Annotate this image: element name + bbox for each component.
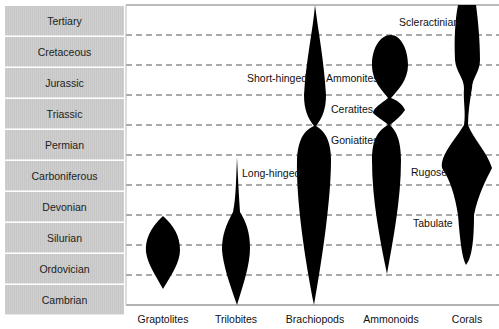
label-scleractinian: Scleractinian — [399, 16, 459, 28]
trilobites-shape — [222, 157, 250, 305]
diversity-plot — [0, 0, 499, 329]
label-ammonites: Ammonites — [326, 72, 379, 84]
brachiopods-shape — [297, 5, 331, 305]
axis-label-brachiopods: Brachiopods — [286, 313, 344, 325]
label-tabulate: Tabulate — [413, 217, 453, 229]
axis-label-graptolites: Graptolites — [138, 313, 189, 325]
axis-label-ammonoids: Ammonoids — [363, 313, 418, 325]
axis-label-trilobites: Trilobites — [215, 313, 257, 325]
label-rugose: Rugose — [411, 166, 447, 178]
label-short-hinged: Short-hinged — [247, 72, 307, 84]
ammonoids-shape — [372, 35, 408, 274]
label-goniatites: Goniatites — [331, 134, 378, 146]
label-ceratites: Ceratites — [331, 103, 373, 115]
axis-label-corals: Corals — [452, 313, 482, 325]
graptolites-shape — [146, 216, 180, 289]
label-long-hinged: Long-hinged — [242, 167, 300, 179]
